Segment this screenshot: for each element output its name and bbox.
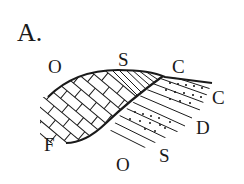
brick-pattern (4, 34, 177, 184)
geologic-cross-section (0, 0, 244, 184)
shale-lines-right (90, 70, 214, 150)
